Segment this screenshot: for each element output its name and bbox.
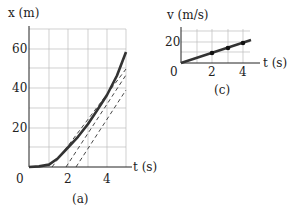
- chart-c-ytick-20: 20: [165, 35, 180, 49]
- chart-c-xlabel: t (s): [263, 56, 287, 70]
- chart-a-grid: [29, 29, 126, 167]
- chart-a-panel-label: (a): [72, 192, 89, 206]
- chart-c-origin: 0: [170, 65, 178, 79]
- chart-c-ylabel: v (m/s): [166, 8, 209, 22]
- chart-a: x (m) t (s) 0 2 4 20 40 60 (a): [8, 6, 157, 206]
- chart-c-panel-label: (c): [214, 83, 230, 97]
- chart-a-ytick-40: 40: [12, 81, 27, 95]
- chart-c: v (m/s) t (s) 0 2 4 20 (c): [165, 8, 287, 97]
- chart-a-ytick-60: 60: [12, 42, 27, 56]
- chart-a-xlabel: t (s): [133, 160, 157, 174]
- chart-a-xtick-2: 2: [64, 172, 72, 186]
- chart-c-axes: [181, 27, 260, 63]
- chart-c-xtick-4: 4: [239, 65, 247, 79]
- chart-a-ylabel: x (m): [8, 6, 39, 20]
- chart-a-axes: [29, 26, 132, 167]
- chart-c-xtick-2: 2: [208, 65, 216, 79]
- chart-c-line: [181, 40, 251, 63]
- chart-a-curve: [29, 52, 126, 167]
- chart-a-ytick-20: 20: [12, 121, 27, 135]
- chart-a-xtick-4: 4: [103, 172, 111, 186]
- chart-a-origin: 0: [16, 172, 24, 186]
- chart-c-grid: [181, 29, 250, 63]
- figure: x (m) t (s) 0 2 4 20 40 60 (a) v (m: [0, 0, 302, 211]
